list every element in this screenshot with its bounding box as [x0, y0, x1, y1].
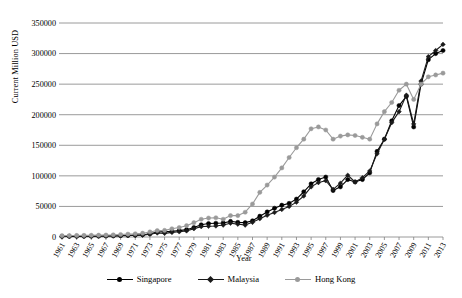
data-point-marker [214, 216, 218, 220]
x-axis-tick-label: 2011 [418, 241, 434, 259]
x-axis-tick-label: 1979 [183, 241, 199, 259]
data-point-marker [338, 134, 342, 138]
data-point-marker [331, 137, 335, 141]
data-point-marker [250, 202, 254, 206]
legend-key [107, 275, 133, 284]
chart-legend: SingaporeMalaysiaHong Kong [0, 274, 462, 284]
data-point-marker [353, 133, 357, 137]
data-point-marker [368, 137, 372, 141]
series-line [62, 51, 443, 237]
gridlines: 0500001000001500002000002500003000003500… [31, 19, 443, 242]
x-axis-tick-label: 1963 [66, 241, 82, 259]
y-axis-tick-label: 200000 [31, 111, 56, 120]
data-point-marker [397, 88, 401, 92]
x-axis-tick-label: 1977 [168, 241, 184, 259]
data-point-marker [382, 110, 386, 114]
x-axis-tick-label: 1973 [139, 241, 155, 259]
series-hong-kong [60, 71, 445, 238]
x-axis-tick-label: 1991 [271, 241, 287, 259]
data-point-marker [441, 48, 445, 52]
series-line [62, 73, 443, 236]
data-point-marker [221, 217, 225, 221]
x-axis-title: Year [236, 254, 251, 263]
series-singapore [60, 48, 445, 238]
data-point-marker [280, 203, 284, 207]
x-axis-tick-label: 1999 [330, 241, 346, 259]
y-axis-tick-label: 100000 [31, 172, 56, 181]
y-axis-tick-label: 0 [52, 233, 56, 242]
x-axis-tick-label: 1967 [95, 241, 111, 259]
legend-label: Malaysia [228, 274, 260, 284]
data-point-marker [184, 224, 188, 228]
legend-key [285, 275, 311, 284]
x-axis-tick-label: 2005 [374, 241, 390, 259]
series-malaysia [60, 42, 446, 239]
data-point-marker [302, 190, 306, 194]
legend-label: Singapore [137, 274, 172, 284]
data-point-marker [441, 71, 445, 75]
data-point-marker [316, 125, 320, 129]
x-axis-title-text: Year [236, 254, 251, 263]
data-point-marker [155, 228, 159, 232]
x-axis-tick-label: 1965 [80, 241, 96, 259]
data-point-marker [346, 133, 350, 137]
legend-item-malaysia: Malaysia [198, 274, 260, 284]
data-point-marker [162, 228, 166, 232]
legend-key [198, 275, 224, 284]
data-point-marker [280, 166, 284, 170]
data-point-marker [390, 100, 394, 104]
data-point-marker [272, 175, 276, 179]
data-point-marker [309, 127, 313, 131]
x-axis-tick-label: 1971 [124, 241, 140, 259]
data-point-marker [192, 221, 196, 225]
x-axis-tick-label: 1969 [110, 241, 126, 259]
data-point-marker [82, 233, 86, 237]
data-point-marker [294, 146, 298, 150]
y-axis-tick-label: 50000 [36, 202, 56, 211]
data-point-marker [228, 214, 232, 218]
data-point-marker [324, 128, 328, 132]
legend-item-singapore: Singapore [107, 274, 172, 284]
chart-figure: 0500001000001500002000002500003000003500… [0, 0, 462, 298]
legend-marker-diamond-icon [206, 275, 213, 282]
data-point-marker [89, 233, 93, 237]
data-point-marker [67, 233, 71, 237]
y-axis-tick-label: 150000 [31, 141, 56, 150]
data-point-marker [177, 225, 181, 229]
x-axis-tick-label: 1975 [154, 241, 170, 259]
data-point-marker [206, 216, 210, 220]
x-axis-tick-label: 2001 [344, 241, 360, 259]
x-axis-tick-label: 1995 [300, 241, 316, 259]
x-axis-tick-label: 1983 [212, 241, 228, 259]
x-axis-tick-label: 1981 [198, 241, 214, 259]
data-point-marker [199, 217, 203, 221]
x-axis-tick-label: 1997 [315, 241, 331, 259]
line-chart-plot: 0500001000001500002000002500003000003500… [0, 0, 462, 298]
x-axis-tick-label: 2013 [432, 241, 448, 259]
data-point-marker [426, 75, 430, 79]
data-point-marker [97, 233, 101, 237]
data-point-marker [412, 97, 416, 101]
legend-item-hong-kong: Hong Kong [285, 274, 355, 284]
data-point-marker [302, 137, 306, 141]
data-point-marker [258, 190, 262, 194]
x-axis-tick-label: 2007 [388, 241, 404, 259]
x-axis-tick-label: 1989 [256, 241, 272, 259]
data-point-marker [119, 232, 123, 236]
data-point-marker [236, 214, 240, 218]
y-axis-title-text: Current Million USD [11, 30, 20, 104]
data-point-marker [272, 210, 277, 215]
data-point-marker [272, 206, 276, 210]
y-axis-tick-label: 250000 [31, 80, 56, 89]
x-axis-tick-label: 2009 [403, 241, 419, 259]
legend-marker-circle-icon [117, 277, 122, 282]
data-point-marker [148, 230, 152, 234]
x-axis-tick-label: 1961 [51, 241, 67, 259]
x-axis-tick-label: 1993 [286, 241, 302, 259]
data-point-marker [404, 82, 408, 86]
data-point-marker [133, 232, 137, 236]
data-point-marker [265, 183, 269, 187]
legend-label: Hong Kong [315, 274, 355, 284]
y-axis-tick-label: 300000 [31, 49, 56, 58]
data-point-marker [170, 227, 174, 231]
